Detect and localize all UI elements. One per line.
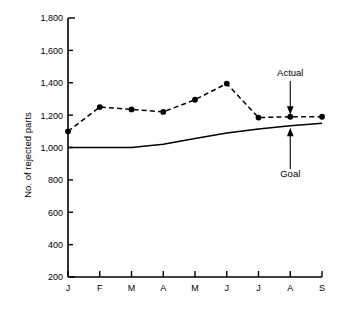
x-tick-label: M bbox=[191, 283, 199, 293]
data-point-marker bbox=[319, 114, 325, 120]
data-point-marker bbox=[97, 104, 103, 110]
chart-container: 1,8001,6001,4001,2001,000800600400200 JF… bbox=[0, 0, 337, 309]
y-tick-label: 600 bbox=[48, 208, 63, 218]
y-tick-label: 1,200 bbox=[40, 111, 63, 121]
x-tick-label: F bbox=[97, 283, 103, 293]
data-point-marker bbox=[192, 97, 198, 103]
x-tick-label: J bbox=[256, 283, 261, 293]
y-tick-label: 800 bbox=[48, 175, 63, 185]
x-tick-label: A bbox=[160, 283, 166, 293]
y-tick-label: 1,800 bbox=[40, 13, 63, 23]
data-point-marker bbox=[160, 109, 166, 115]
x-tick-label: A bbox=[287, 283, 293, 293]
y-tick-label: 1,400 bbox=[40, 78, 63, 88]
data-point-marker bbox=[65, 128, 71, 134]
actual-annotation-label: Actual bbox=[277, 67, 303, 78]
data-point-marker bbox=[256, 115, 262, 121]
goal-annotation-label: Goal bbox=[280, 168, 300, 179]
rejected-parts-line-chart: 1,8001,6001,4001,2001,000800600400200 JF… bbox=[0, 0, 337, 309]
y-tick-label: 400 bbox=[48, 240, 63, 250]
data-point-marker bbox=[224, 81, 230, 87]
x-tick-label: J bbox=[225, 283, 230, 293]
x-tick-label: M bbox=[128, 283, 136, 293]
y-tick-label: 1,000 bbox=[40, 143, 63, 153]
y-axis-title: No. of rejected parts bbox=[22, 112, 33, 198]
y-tick-label: 200 bbox=[48, 272, 63, 282]
data-point-marker bbox=[129, 107, 135, 113]
y-tick-label: 1,600 bbox=[40, 46, 63, 56]
x-tick-label: J bbox=[66, 283, 71, 293]
x-tick-label: S bbox=[319, 283, 325, 293]
